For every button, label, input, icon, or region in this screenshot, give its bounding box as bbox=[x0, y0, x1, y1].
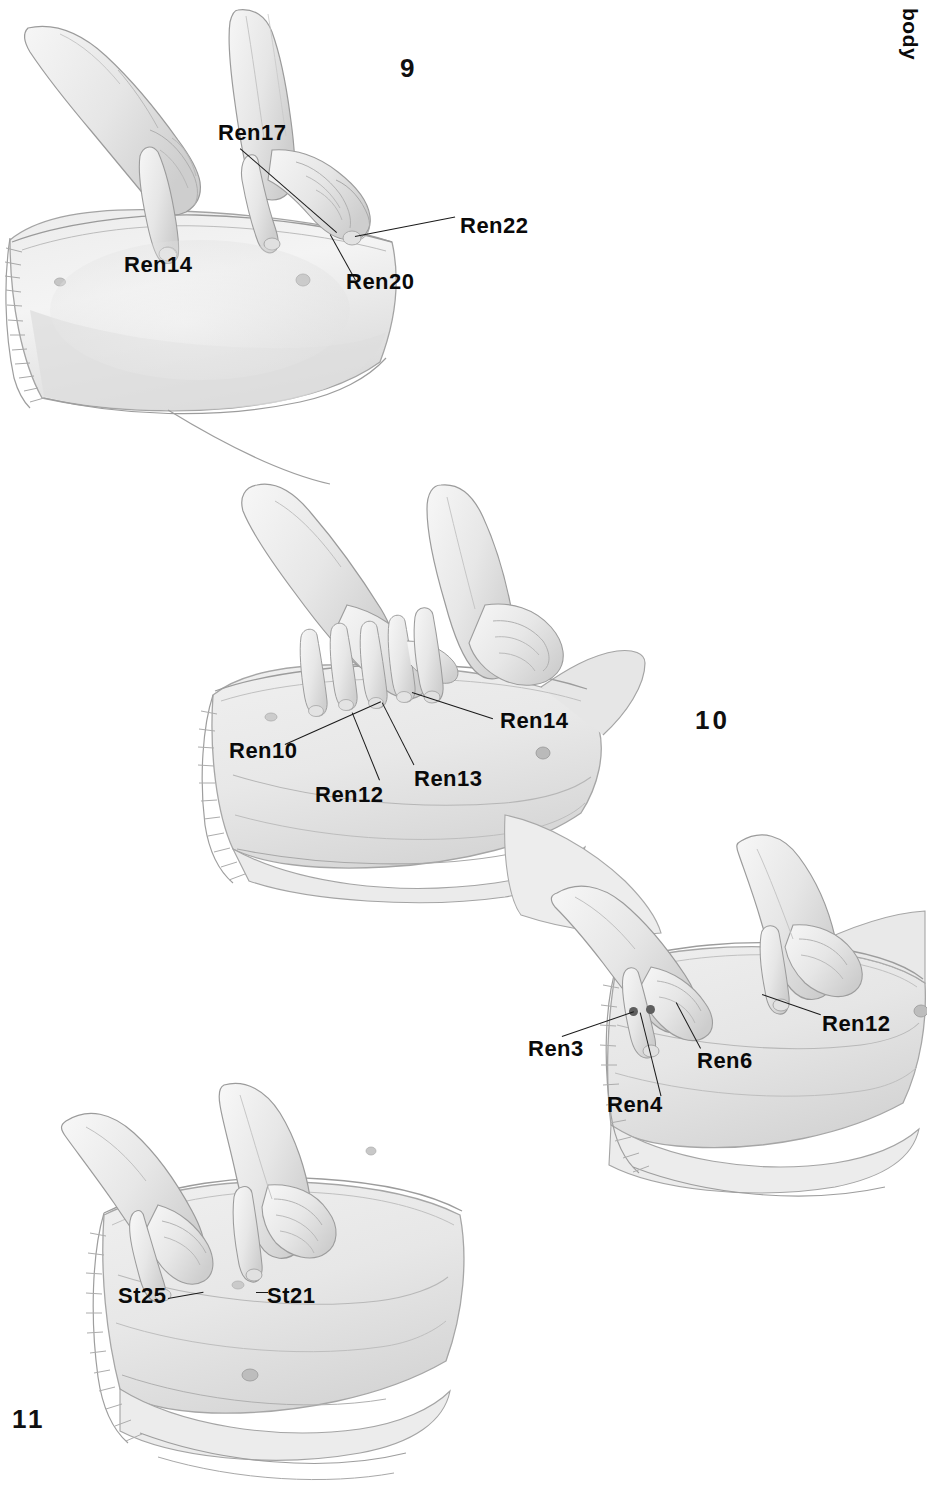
figure-number-11: 11 bbox=[12, 1406, 46, 1432]
label-ren17: Ren17 bbox=[218, 122, 287, 144]
label-ren13: Ren13 bbox=[414, 768, 483, 790]
point-dot-ren4 bbox=[646, 1005, 655, 1014]
label-st25: St25 bbox=[118, 1285, 166, 1307]
label-ren20: Ren20 bbox=[346, 271, 415, 293]
running-head-body: body bbox=[898, 8, 922, 60]
label-ren6: Ren6 bbox=[697, 1050, 753, 1072]
label-ren14-fig10a: Ren14 bbox=[500, 710, 569, 732]
point-dot-ren3 bbox=[629, 1007, 638, 1016]
label-ren10: Ren10 bbox=[229, 740, 298, 762]
label-ren12-fig10a: Ren12 bbox=[315, 784, 384, 806]
label-ren14-fig9: Ren14 bbox=[124, 254, 193, 276]
figure-number-10: 10 bbox=[695, 707, 730, 733]
label-ren4: Ren4 bbox=[607, 1094, 663, 1116]
figure-number-9: 9 bbox=[400, 55, 417, 81]
page-canvas: body bbox=[0, 0, 927, 1488]
label-st21: St21 bbox=[267, 1285, 315, 1307]
label-ren22: Ren22 bbox=[460, 215, 529, 237]
label-ren12-fig10b: Ren12 bbox=[822, 1013, 891, 1035]
figure-11-illustration bbox=[28, 1085, 478, 1488]
label-ren3: Ren3 bbox=[528, 1038, 584, 1060]
